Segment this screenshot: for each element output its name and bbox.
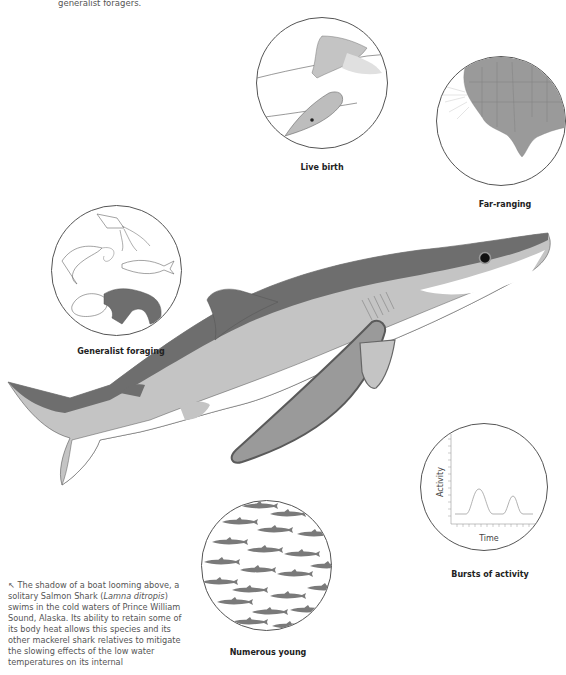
far-ranging-panel xyxy=(436,56,566,186)
arrow-up-left-icon: ↖ xyxy=(8,580,15,590)
intro-text: generalist foragers. xyxy=(58,0,141,8)
numerous-young-label: Numerous young xyxy=(226,648,310,657)
live-birth-illustration-icon xyxy=(257,18,388,149)
map-usa-west-icon xyxy=(437,57,566,186)
generalist-foraging-panel xyxy=(51,205,182,336)
generalist-foraging-label: Generalist foraging xyxy=(66,347,176,356)
far-ranging-label: Far-ranging xyxy=(465,200,545,209)
bursts-of-activity-panel: Activity Time xyxy=(420,423,548,551)
live-birth-label: Live birth xyxy=(290,163,354,172)
activity-chart-icon: Activity Time xyxy=(421,424,548,551)
prey-items-icon xyxy=(52,206,182,336)
school-of-sharks-icon xyxy=(202,501,332,631)
activity-axis-label: Activity xyxy=(436,467,445,497)
live-birth-panel xyxy=(256,17,388,149)
shark-eye-icon xyxy=(480,253,491,264)
numerous-young-panel xyxy=(201,500,332,631)
caption-text-part2: ) swims in the cold waters of Prince Wil… xyxy=(8,591,181,667)
bursts-of-activity-label: Bursts of activity xyxy=(440,570,540,579)
photo-caption: ↖ The shadow of a boat looming above, a … xyxy=(8,580,193,668)
species-name: Lamna ditropis xyxy=(103,591,164,601)
time-axis-label: Time xyxy=(478,534,499,543)
